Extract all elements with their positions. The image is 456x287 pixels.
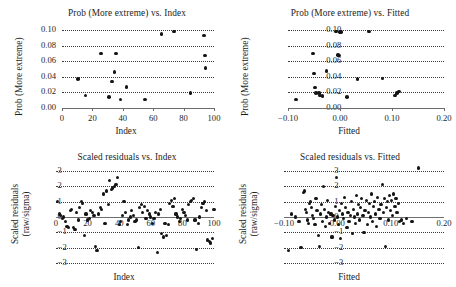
panel-resid-vs-fitted: Scaled residuals vs. Fitted Scaled resid… [228, 144, 456, 287]
data-point [307, 222, 310, 225]
data-point [167, 223, 170, 226]
x-tick-label: 20 [88, 113, 97, 123]
data-point [105, 189, 108, 192]
data-point [375, 225, 378, 228]
data-point [107, 95, 111, 99]
x-axis-line [62, 108, 214, 109]
data-point [110, 80, 114, 84]
data-point [108, 179, 111, 182]
data-point [151, 222, 154, 225]
data-point [171, 205, 174, 208]
gridline-y [288, 30, 444, 31]
x-tick-label: 80 [179, 113, 188, 123]
data-point [187, 203, 190, 206]
gridline-y [62, 61, 214, 62]
data-point [113, 70, 117, 74]
x-axis-title: Fitted [228, 272, 456, 282]
data-point [343, 196, 346, 199]
data-point [205, 209, 208, 212]
data-point [156, 251, 159, 254]
data-point [321, 220, 324, 223]
data-point [287, 249, 290, 252]
data-point [324, 225, 327, 228]
data-point [107, 203, 110, 206]
data-point [356, 212, 359, 215]
y-tick-label: 0.10 [41, 24, 56, 34]
data-point [305, 211, 308, 214]
data-point [370, 192, 373, 195]
data-point [202, 34, 206, 38]
x-axis-line [288, 108, 444, 109]
gridline-y [56, 263, 214, 264]
data-point [159, 208, 162, 211]
plot-area: 0.000.020.040.060.080.10020406080100 [62, 26, 214, 108]
data-point [389, 209, 392, 212]
data-point [395, 211, 398, 214]
data-point [386, 200, 389, 203]
data-point [118, 223, 121, 226]
data-point [211, 237, 214, 240]
data-point [334, 205, 337, 208]
x-tick-mark [340, 108, 341, 111]
x-tick-label: 0.10 [384, 113, 399, 123]
data-point [313, 86, 317, 90]
data-point [67, 226, 70, 229]
x-tick-label: 0 [60, 113, 64, 123]
gridline-y [284, 248, 444, 249]
x-tick-label: 0.10 [383, 218, 398, 228]
data-point [345, 226, 348, 229]
data-point [367, 211, 370, 214]
data-point [130, 209, 133, 212]
data-point [392, 192, 395, 195]
y-tick-label: −2 [334, 242, 343, 252]
y-axis-title-line2: (raw/sigma) [21, 162, 32, 266]
y-axis-title: Prob (More extreme) [14, 38, 24, 116]
x-tick-label: 0.20 [436, 218, 451, 228]
data-point [372, 205, 375, 208]
y-axis-title-line2: (raw/sigma) [249, 162, 260, 266]
panel-resid-vs-index: Scaled residuals vs. Index Scaled residu… [0, 144, 228, 287]
data-point [186, 218, 189, 221]
data-point [369, 215, 372, 218]
data-point [317, 234, 320, 237]
data-point [200, 206, 203, 209]
data-point [127, 218, 130, 221]
data-point [384, 245, 387, 248]
data-point [99, 52, 103, 56]
data-point [376, 196, 379, 199]
gridline-y [288, 77, 444, 78]
x-axis-title: Index [0, 272, 228, 282]
data-point [92, 214, 95, 217]
data-point [318, 245, 321, 248]
gridline-y [62, 77, 214, 78]
x-tick-label: −0.10 [274, 218, 294, 228]
data-point [73, 228, 76, 231]
data-point [297, 220, 300, 223]
data-point [331, 214, 334, 217]
data-point [125, 85, 129, 89]
data-point [312, 72, 316, 76]
y-tick-label: 3 [334, 165, 338, 175]
data-point [311, 52, 315, 56]
data-point [294, 98, 298, 102]
data-point [195, 248, 198, 251]
data-point [397, 202, 400, 205]
data-point [347, 220, 350, 223]
data-point [339, 30, 343, 34]
data-point [165, 234, 168, 237]
gridline-y [56, 171, 214, 172]
regression-diagnostics-figure: Prob (More extreme) vs. Index Prob (More… [0, 0, 456, 287]
plot-area: −3−2−10123020406080100 [56, 168, 214, 266]
y-tick-label: 0.06 [41, 55, 56, 65]
y-axis-title-line1: Scaled residuals [10, 162, 21, 266]
gridline-y [62, 30, 214, 31]
data-point [344, 206, 347, 209]
data-point [402, 222, 405, 225]
data-point [397, 90, 401, 94]
data-point [62, 215, 65, 218]
y-axis-title-line1: Scaled residuals [238, 162, 249, 266]
data-point [121, 214, 124, 217]
data-point [299, 246, 302, 249]
y-axis-title: Prob (More extreme) [240, 38, 250, 116]
data-point [94, 245, 97, 248]
